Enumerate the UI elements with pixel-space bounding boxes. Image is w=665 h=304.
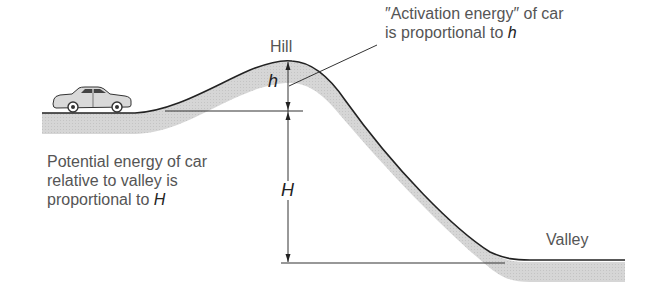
- activation-label-line1: ″Activation energy″ of car: [385, 4, 564, 23]
- potential-variable: H: [154, 191, 166, 208]
- valley-label: Valley: [546, 230, 588, 249]
- activation-label-prefix: is proportional to: [385, 24, 508, 41]
- hill-label: Hill: [270, 37, 292, 56]
- activation-label-line2: is proportional to h: [385, 23, 564, 42]
- activation-energy-label: ″Activation energy″ of car is proportion…: [385, 4, 564, 42]
- activation-variable: h: [508, 24, 517, 41]
- h-arrow-down: [286, 102, 291, 110]
- potential-label-line1: Potential energy of car: [47, 152, 207, 171]
- small-h-label: h: [268, 72, 278, 91]
- big-H-label: H: [280, 181, 295, 200]
- potential-energy-label: Potential energy of car relative to vall…: [47, 152, 207, 209]
- H-arrow-up: [286, 112, 291, 120]
- H-arrow-down: [286, 254, 291, 262]
- car-icon: [53, 87, 131, 112]
- potential-label-prefix: proportional to: [47, 191, 154, 208]
- potential-label-line2: relative to valley is: [47, 171, 207, 190]
- potential-label-line3: proportional to H: [47, 190, 207, 209]
